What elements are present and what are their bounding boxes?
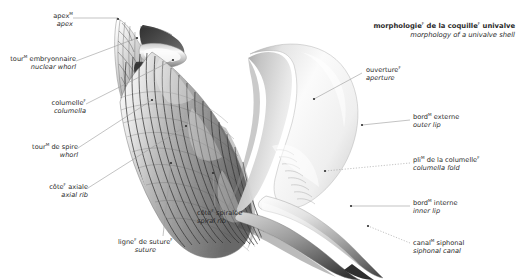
shell-illustration — [0, 0, 523, 280]
label-whorl: tourM de spire whorl — [0, 143, 78, 159]
label-inner-lip: bordM interne inner lip — [413, 199, 457, 215]
label-aperture: ouvertureF aperture — [366, 66, 401, 82]
figure-title: morphologieF de la coquilleF univalve mo… — [373, 22, 515, 39]
label-spiral-rib: côteF spiralée spiral rib — [197, 209, 242, 225]
figure-title-fr: morphologieF de la coquilleF univalve — [373, 22, 515, 31]
label-columella: columelleF columella — [0, 99, 86, 115]
label-columella-fold: pliM de la columelleF columella fold — [413, 156, 480, 172]
label-suture: ligneF de sutureF suture — [118, 238, 173, 254]
label-apex: apexM apex — [0, 12, 73, 28]
siphonal-canal — [235, 196, 383, 280]
label-nuclear-whorl: tourM embryonnaire nuclear whorl — [0, 55, 76, 71]
label-axial-rib: côteF axiale axial rib — [0, 183, 88, 199]
illustration-canvas: morphologieF de la coquilleF univalve mo… — [0, 0, 523, 280]
figure-title-en: morphology of a univalve shell — [373, 31, 515, 40]
label-siphonal-canal: canalM siphonal siphonal canal — [413, 239, 464, 255]
shell-aperture — [228, 44, 358, 214]
label-outer-lip: bordM externe outer lip — [413, 113, 459, 129]
